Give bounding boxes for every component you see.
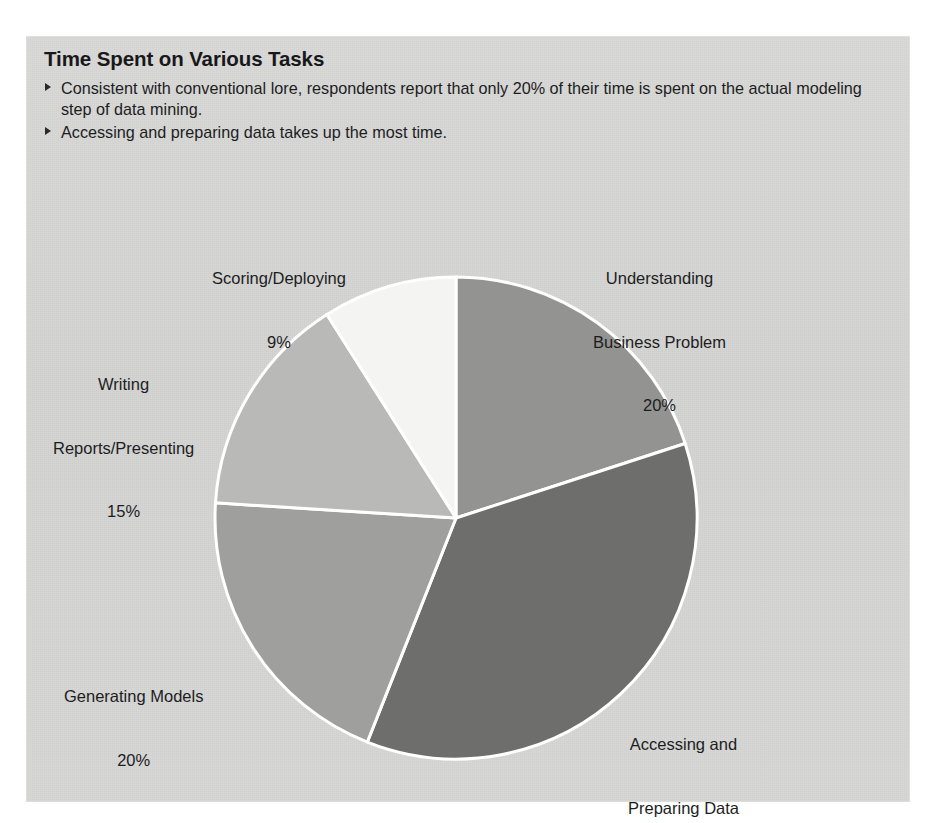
pie-label-line1: Generating Models [64, 686, 203, 707]
triangle-bullet-icon [45, 83, 51, 91]
header-block: Time Spent on Various Tasks Consistent w… [44, 48, 890, 144]
page-title: Time Spent on Various Tasks [44, 48, 890, 71]
pie-label-value: 9% [212, 332, 346, 353]
pie-label-line2: Preparing Data [628, 798, 739, 819]
pie-label-writing-reports-presenting: Writing Reports/Presenting 15% [53, 332, 194, 564]
pie-label-accessing-and-preparing-data: Accessing and Preparing Data 36% [628, 692, 739, 823]
pie-chart: Understanding Business Problem 20% Acces… [26, 36, 910, 802]
bullet-item: Accessing and preparing data takes up th… [44, 122, 890, 144]
pie-label-scoring-deploying: Scoring/Deploying 9% [212, 226, 346, 395]
pie-label-generating-models: Generating Models 20% [64, 644, 203, 813]
pie-label-line1: Scoring/Deploying [212, 268, 346, 289]
bullet-list: Consistent with conventional lore, respo… [44, 78, 890, 144]
pie-label-line2: Reports/Presenting [53, 438, 194, 459]
pie-label-value: 20% [64, 750, 203, 771]
pie-label-line1: Accessing and [628, 734, 739, 755]
bullet-text: Accessing and preparing data takes up th… [61, 123, 447, 141]
bullet-text: Consistent with conventional lore, respo… [61, 79, 862, 119]
bullet-item: Consistent with conventional lore, respo… [44, 78, 890, 121]
pie-label-understanding-business-problem: Understanding Business Problem 20% [593, 226, 726, 458]
pie-label-line1: Understanding [593, 268, 726, 289]
pie-label-line2: Business Problem [593, 332, 726, 353]
triangle-bullet-icon [45, 127, 51, 135]
scanned-page: Time Spent on Various Tasks Consistent w… [0, 0, 939, 823]
exhibit-panel: Time Spent on Various Tasks Consistent w… [26, 36, 910, 802]
pie-label-value: 15% [53, 501, 194, 522]
pie-label-line1: Writing [53, 374, 194, 395]
pie-label-value: 20% [593, 395, 726, 416]
